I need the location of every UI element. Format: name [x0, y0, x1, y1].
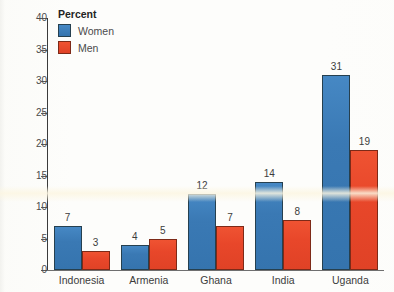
- y-axis-tick: 30: [0, 81, 47, 82]
- bar-women-armenia[interactable]: [121, 245, 149, 270]
- x-axis-category-label: Indonesia: [48, 274, 115, 286]
- x-axis-category-label: Uganda: [317, 274, 384, 286]
- bar-value-label: 31: [322, 62, 350, 72]
- paper-edge-shading: [0, 0, 5, 292]
- bar-value-label: 7: [216, 213, 244, 223]
- y-axis-tick-label: 15: [21, 171, 47, 181]
- y-axis-tick: 15: [0, 176, 47, 177]
- y-axis-tick-label: 40: [21, 13, 47, 23]
- legend-title: Percent: [58, 8, 114, 20]
- x-axis-line: [47, 270, 384, 271]
- women-swatch-icon: [58, 24, 71, 37]
- y-axis-tick: 25: [0, 113, 47, 114]
- y-axis-tick: 10: [0, 207, 47, 208]
- men-swatch-icon: [58, 41, 71, 54]
- y-axis-tick: 20: [0, 144, 47, 145]
- bar-value-label: 3: [82, 238, 110, 248]
- bar-men-armenia[interactable]: [149, 239, 177, 271]
- y-axis-tick-label: 30: [21, 76, 47, 86]
- bar-men-indonesia[interactable]: [82, 251, 110, 270]
- bar-value-label: 7: [54, 213, 82, 223]
- bar-women-india[interactable]: [255, 182, 283, 270]
- bar-chart: 4035302520151050 73451271483119 Percent …: [0, 0, 394, 292]
- y-axis-tick-label: 5: [21, 234, 47, 244]
- bar-value-label: 4: [121, 232, 149, 242]
- legend-item-men: Men: [58, 41, 114, 54]
- y-axis-tick-label: 0: [21, 265, 47, 275]
- bar-women-ghana[interactable]: [188, 194, 216, 270]
- bar-value-label: 5: [149, 226, 177, 236]
- y-axis-tick: 35: [0, 50, 47, 51]
- bar-value-label: 19: [350, 137, 378, 147]
- bar-value-label: 12: [188, 181, 216, 191]
- bar-group: 3119: [322, 18, 378, 270]
- bar-men-india[interactable]: [283, 220, 311, 270]
- y-axis-tick-label: 10: [21, 202, 47, 212]
- bar-women-uganda[interactable]: [322, 75, 350, 270]
- x-axis-category-label: Armenia: [115, 274, 182, 286]
- legend-label-women: Women: [78, 25, 114, 37]
- y-axis-tick-label: 20: [21, 139, 47, 149]
- y-axis-tick: 5: [0, 239, 47, 240]
- bar-men-ghana[interactable]: [216, 226, 244, 270]
- x-axis-category-label: India: [250, 274, 317, 286]
- y-axis-tick: 0: [0, 270, 47, 271]
- legend-label-men: Men: [78, 42, 98, 54]
- y-axis-tick-label: 35: [21, 45, 47, 55]
- bar-group: 127: [188, 18, 244, 270]
- y-axis-tick: 40: [0, 18, 47, 19]
- y-axis-tick-label: 25: [21, 108, 47, 118]
- bar-men-uganda[interactable]: [350, 150, 378, 270]
- legend-item-women: Women: [58, 24, 114, 37]
- legend: Percent Women Men: [58, 8, 114, 58]
- bar-value-label: 14: [255, 169, 283, 179]
- bar-group: 148: [255, 18, 311, 270]
- bar-value-label: 8: [283, 207, 311, 217]
- x-axis-category-label: Ghana: [182, 274, 249, 286]
- bar-women-indonesia[interactable]: [54, 226, 82, 270]
- bar-group: 45: [121, 18, 177, 270]
